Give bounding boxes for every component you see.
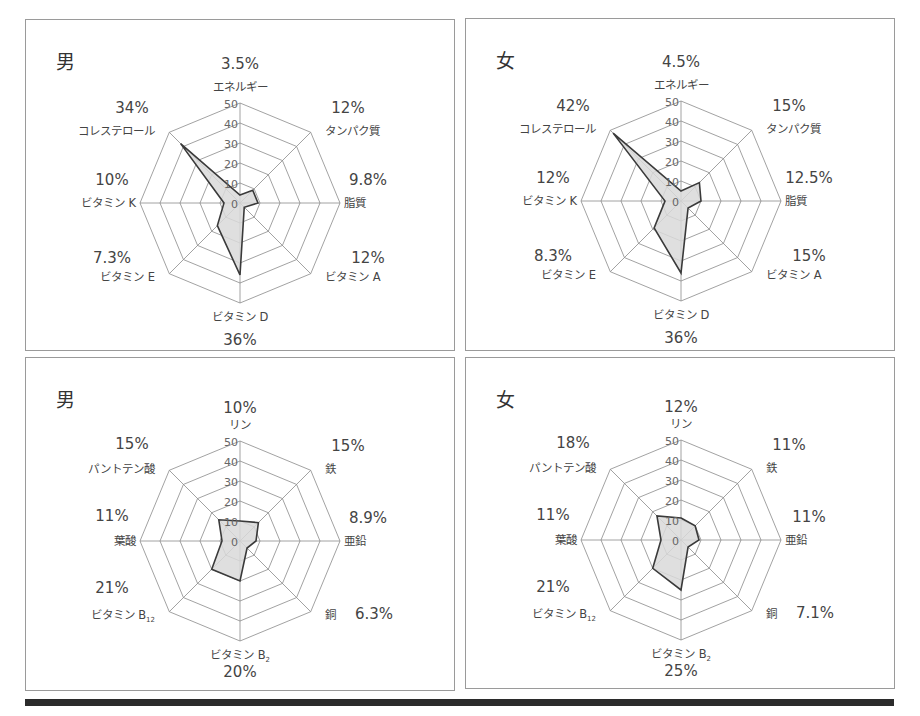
axis-label: 鉄: [766, 461, 778, 475]
axis-label: リン: [229, 418, 251, 432]
percent-label: 11%: [536, 506, 569, 524]
tick-label: 30: [224, 476, 238, 489]
axis-label: ビタミン K: [522, 194, 578, 208]
percent-label: 25%: [664, 662, 697, 680]
axis-label: ビタミン D: [212, 310, 269, 324]
axis-label: ビタミン B2: [210, 648, 270, 664]
percent-label: 3.5%: [221, 55, 259, 73]
percent-label: 6.3%: [355, 605, 393, 623]
axis-label: 鉄: [325, 462, 337, 476]
panel-bottom-right-female: 女 01020304050リン12%鉄11%亜鉛11%銅7.1%ビタミン B22…: [465, 357, 895, 689]
percent-label: 12%: [664, 398, 697, 416]
tick-label: 20: [665, 495, 679, 508]
divider-bar: [25, 699, 894, 706]
axis-label: ビタミン D: [653, 308, 710, 322]
axis-label: ビタミン A: [766, 268, 822, 282]
axis-label: コレステロール: [78, 124, 155, 138]
percent-label: 11%: [792, 508, 825, 526]
percent-label: 8.9%: [349, 509, 387, 527]
percent-label: 12%: [331, 99, 364, 117]
axis-label: タンパク質: [766, 122, 821, 136]
axis-label: パントテン酸: [88, 462, 156, 476]
series-polygon: [613, 133, 701, 273]
tick-label: 0: [672, 196, 679, 209]
percent-label: 21%: [536, 578, 569, 596]
tick-label: 20: [224, 158, 238, 171]
tick-label: 40: [665, 116, 679, 129]
tick-label: 40: [665, 455, 679, 468]
tick-label: 0: [672, 535, 679, 548]
axis-label: 亜鉛: [344, 534, 367, 548]
axis-label: ビタミン A: [325, 270, 381, 284]
percent-label: 36%: [664, 329, 697, 347]
percent-label: 42%: [556, 97, 589, 115]
axis-label: 銅: [766, 607, 777, 621]
radar-chart-br: 01020304050リン12%鉄11%亜鉛11%銅7.1%ビタミン B225%…: [466, 358, 896, 690]
axis-label: コレステロール: [519, 122, 596, 136]
axis-label: 銅: [325, 608, 336, 622]
percent-label: 15%: [772, 97, 805, 115]
percent-label: 34%: [115, 99, 148, 117]
percent-label: 15%: [115, 435, 148, 453]
tick-label: 50: [224, 436, 238, 449]
axis-label: エネルギー: [213, 80, 268, 94]
radar-chart-tl: 01020304050エネルギー3.5%タンパク質12%脂質9.8%ビタミン A…: [26, 20, 456, 352]
percent-label: 15%: [792, 247, 825, 265]
tick-label: 40: [224, 456, 238, 469]
tick-label: 10: [224, 516, 238, 529]
axis-label: 亜鉛: [785, 533, 808, 547]
percent-label: 10%: [223, 399, 256, 417]
tick-label: 0: [231, 198, 238, 211]
tick-label: 30: [665, 475, 679, 488]
percent-label: 12%: [351, 249, 384, 267]
radar-chart-tr: 01020304050エネルギー4.5%タンパク質15%脂質12.5%ビタミン …: [466, 19, 896, 352]
panel-bottom-left-male: 男 01020304050リン10%鉄15%亜鉛8.9%銅6.3%ビタミン B2…: [25, 357, 455, 691]
tick-label: 10: [224, 178, 238, 191]
axis-label: タンパク質: [325, 124, 380, 138]
percent-label: 11%: [95, 507, 128, 525]
tick-label: 50: [665, 435, 679, 448]
axis-label: エネルギー: [654, 78, 709, 92]
tick-label: 40: [224, 118, 238, 131]
panel-top-left-male: 男 01020304050エネルギー3.5%タンパク質12%脂質9.8%ビタミン…: [25, 19, 455, 351]
percent-label: 12.5%: [785, 169, 833, 187]
panel-top-right-female: 女 01020304050エネルギー4.5%タンパク質15%脂質12.5%ビタミ…: [465, 18, 895, 351]
percent-label: 4.5%: [662, 53, 700, 71]
radar-chart-bl: 01020304050リン10%鉄15%亜鉛8.9%銅6.3%ビタミン B220…: [26, 358, 456, 692]
axis-label: パントテン酸: [529, 461, 597, 475]
percent-label: 7.3%: [93, 249, 131, 267]
percent-label: 7.1%: [796, 604, 834, 622]
tick-label: 0: [231, 536, 238, 549]
axis-label: 脂質: [344, 196, 366, 210]
axis-label: ビタミン B12: [91, 608, 155, 624]
axis-label: ビタミン K: [81, 196, 137, 210]
percent-label: 20%: [223, 663, 256, 681]
percent-label: 9.8%: [349, 171, 387, 189]
axis-label: 葉酸: [555, 533, 578, 547]
axis-label: ビタミン B2: [651, 647, 711, 663]
percent-label: 10%: [95, 171, 128, 189]
tick-label: 30: [665, 136, 679, 149]
axis-label: リン: [670, 417, 692, 431]
axis-label: ビタミン B12: [532, 607, 596, 623]
tick-label: 20: [224, 496, 238, 509]
percent-label: 21%: [95, 579, 128, 597]
percent-label: 36%: [223, 331, 256, 349]
tick-label: 20: [665, 156, 679, 169]
axis-label: 葉酸: [114, 534, 137, 548]
tick-label: 10: [665, 176, 679, 189]
axis-label: 脂質: [785, 194, 807, 208]
tick-label: 10: [665, 515, 679, 528]
tick-label: 30: [224, 138, 238, 151]
axis-label: ビタミン E: [100, 270, 155, 284]
percent-label: 18%: [556, 434, 589, 452]
tick-label: 50: [224, 98, 238, 111]
percent-label: 8.3%: [534, 247, 572, 265]
percent-label: 11%: [772, 436, 805, 454]
percent-label: 12%: [536, 169, 569, 187]
tick-label: 50: [665, 96, 679, 109]
percent-label: 15%: [331, 437, 364, 455]
axis-label: ビタミン E: [541, 268, 596, 282]
